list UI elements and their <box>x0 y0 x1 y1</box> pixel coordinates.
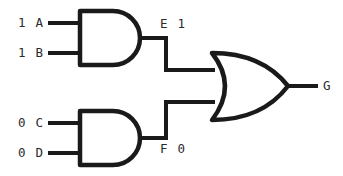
label-and2-output-f0: F 0 <box>160 143 186 156</box>
and-gate-1 <box>80 11 140 65</box>
logic-circuit-diagram: 1 A 1 B 0 C 0 D E 1 F 0 G <box>0 0 343 176</box>
wire-e1 <box>140 38 215 70</box>
label-input-d: 0 D <box>18 147 44 160</box>
label-input-c: 0 C <box>18 117 44 130</box>
label-input-b: 1 B <box>18 47 44 60</box>
wire-f0 <box>140 102 215 138</box>
and-gate-2 <box>80 111 140 165</box>
label-and1-output-e1: E 1 <box>160 18 186 31</box>
label-output-g: G <box>323 80 332 93</box>
or-gate-1 <box>212 53 288 120</box>
label-input-a: 1 A <box>18 17 44 30</box>
